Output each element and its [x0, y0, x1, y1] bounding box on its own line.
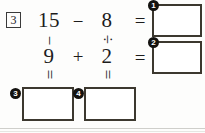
equals-row-2: = [131, 48, 149, 67]
answer-box-1[interactable] [152, 4, 202, 37]
operator-top-row: − [67, 12, 89, 31]
answer-box-4[interactable] [84, 87, 136, 121]
step-badge-4: 4 [73, 88, 84, 99]
equals-right-column: = [99, 65, 116, 85]
answer-box-2[interactable] [152, 41, 202, 74]
step-badge-2: 2 [148, 37, 159, 48]
page-divider [0, 128, 205, 129]
operand-top-left: 15 [34, 10, 64, 31]
question-number: 3 [6, 12, 21, 28]
equals-row-1: = [131, 11, 149, 30]
operator-bottom-row: + [67, 47, 89, 66]
operand-top-right: 8 [95, 10, 119, 31]
equals-left-column: = [41, 65, 58, 85]
step-badge-3: 3 [10, 88, 21, 99]
answer-box-3[interactable] [22, 87, 74, 121]
step-badge-1: 1 [148, 0, 159, 11]
worksheet-problem: 3 15 − 8 − ÷ 9 + 2 = = = = 1 2 3 4 [0, 0, 205, 133]
page-divider-shadow [0, 131, 205, 132]
